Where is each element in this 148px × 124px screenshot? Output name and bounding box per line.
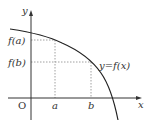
- tick-label-fb: f(b): [7, 57, 26, 68]
- y-axis-label: y: [21, 5, 28, 16]
- tick-label-b: b: [88, 100, 94, 111]
- tick-label-a: a: [52, 100, 58, 111]
- y-axis-arrow-icon: [29, 10, 33, 16]
- x-axis-label: x: [138, 99, 144, 110]
- function-graph: y x O a b f(a) f(b) y=f(x): [0, 0, 148, 124]
- curve-label: y=f(x): [98, 60, 130, 71]
- origin-label: O: [18, 100, 26, 111]
- tick-label-fa: f(a): [7, 35, 26, 46]
- guide-lines: [31, 40, 91, 98]
